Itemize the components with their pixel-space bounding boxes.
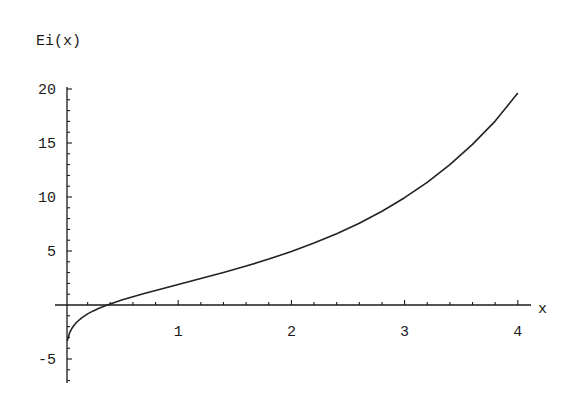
y-tick-label: 20 xyxy=(38,82,56,99)
x-axis-tick-labels: 1234 xyxy=(174,324,523,341)
x-axis-ticks xyxy=(88,300,518,305)
y-tick-label: 10 xyxy=(38,190,56,207)
y-tick-label: 5 xyxy=(47,244,56,261)
y-axis-title: Ei(x) xyxy=(36,33,81,50)
ei-function-plot: Ei(x) x 1234 -55101520 xyxy=(0,0,577,402)
x-tick-label: 4 xyxy=(513,324,522,341)
x-tick-label: 1 xyxy=(174,324,183,341)
x-tick-label: 2 xyxy=(287,324,296,341)
x-axis-title: x xyxy=(538,301,547,318)
y-axis-tick-labels: -55101520 xyxy=(38,82,56,369)
y-tick-label: 15 xyxy=(38,136,56,153)
x-tick-label: 3 xyxy=(400,324,409,341)
y-tick-label: -5 xyxy=(38,352,56,369)
